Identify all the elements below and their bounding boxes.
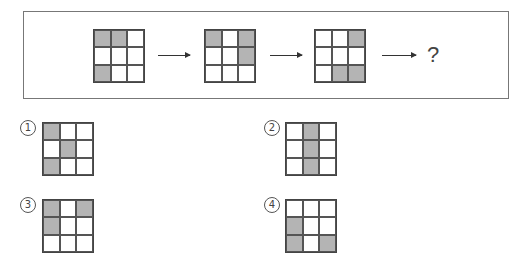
empty-cell (332, 47, 349, 64)
empty-cell (286, 158, 303, 175)
shaded-cell (76, 200, 93, 217)
empty-cell (286, 200, 303, 217)
empty-cell (319, 140, 336, 157)
empty-cell (222, 47, 239, 64)
shaded-cell (348, 65, 365, 82)
arrow-icon (382, 55, 416, 56)
empty-cell (315, 30, 332, 47)
empty-cell (303, 217, 320, 234)
empty-cell (111, 65, 128, 82)
shaded-cell (303, 158, 320, 175)
empty-cell (60, 235, 77, 252)
option-4-label[interactable]: 4 (264, 197, 280, 213)
shaded-cell (238, 47, 255, 64)
empty-cell (111, 47, 128, 64)
shaded-cell (286, 235, 303, 252)
shaded-cell (43, 200, 60, 217)
option-3-label[interactable]: 3 (20, 197, 36, 213)
empty-cell (319, 217, 336, 234)
sequence-grid-3 (314, 29, 366, 83)
empty-cell (286, 140, 303, 157)
empty-cell (43, 140, 60, 157)
option-4-grid[interactable] (285, 199, 337, 253)
empty-cell (222, 65, 239, 82)
shaded-cell (286, 217, 303, 234)
empty-cell (76, 158, 93, 175)
shaded-cell (94, 65, 111, 82)
option-2-label[interactable]: 2 (264, 120, 280, 136)
empty-cell (127, 65, 144, 82)
empty-cell (60, 200, 77, 217)
shaded-cell (238, 30, 255, 47)
shaded-cell (205, 30, 222, 47)
empty-cell (319, 158, 336, 175)
shaded-cell (348, 30, 365, 47)
shaded-cell (319, 235, 336, 252)
empty-cell (319, 123, 336, 140)
empty-cell (348, 47, 365, 64)
empty-cell (76, 235, 93, 252)
shaded-cell (60, 140, 77, 157)
empty-cell (60, 158, 77, 175)
shaded-cell (303, 123, 320, 140)
arrow-icon (270, 55, 302, 56)
shaded-cell (332, 65, 349, 82)
empty-cell (127, 30, 144, 47)
option-1-label[interactable]: 1 (20, 120, 36, 136)
empty-cell (205, 65, 222, 82)
empty-cell (286, 123, 303, 140)
option-2-grid[interactable] (285, 122, 337, 176)
option-1-grid[interactable] (42, 122, 94, 176)
shaded-cell (303, 140, 320, 157)
question-mark: ? (427, 42, 439, 68)
empty-cell (76, 217, 93, 234)
empty-cell (303, 200, 320, 217)
shaded-cell (94, 30, 111, 47)
sequence-grid-1 (93, 29, 145, 83)
empty-cell (205, 47, 222, 64)
empty-cell (43, 235, 60, 252)
empty-cell (222, 30, 239, 47)
empty-cell (332, 30, 349, 47)
shaded-cell (111, 30, 128, 47)
shaded-cell (43, 123, 60, 140)
shaded-cell (43, 217, 60, 234)
empty-cell (315, 65, 332, 82)
sequence-grid-2 (204, 29, 256, 83)
arrow-icon (158, 55, 190, 56)
empty-cell (319, 200, 336, 217)
empty-cell (76, 123, 93, 140)
empty-cell (315, 47, 332, 64)
empty-cell (303, 235, 320, 252)
option-3-grid[interactable] (42, 199, 94, 253)
empty-cell (94, 47, 111, 64)
shaded-cell (43, 158, 60, 175)
empty-cell (127, 47, 144, 64)
empty-cell (60, 217, 77, 234)
empty-cell (238, 65, 255, 82)
empty-cell (60, 123, 77, 140)
empty-cell (76, 140, 93, 157)
